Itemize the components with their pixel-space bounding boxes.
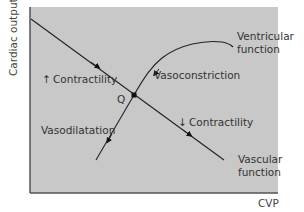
vasoconstriction-label: Vasoconstriction — [154, 69, 240, 81]
increase-contractility-arrow-icon: ↑ — [42, 73, 51, 85]
x-axis-label: CVP — [258, 197, 279, 209]
equilibrium-point-q — [132, 93, 137, 98]
ventricular-function-label-line1: Ventricular — [237, 30, 295, 42]
vascular-function-label-line2: function — [238, 166, 281, 178]
vascular-function-label-line1: Vascular — [238, 153, 283, 165]
y-axis-label: Cardiac output — [7, 0, 19, 76]
decrease-contractility-arrow-icon: ↓ — [178, 116, 187, 128]
point-q-label: Q — [117, 93, 125, 105]
vasodilatation-label: Vasodilatation — [41, 124, 115, 136]
cardiac-vascular-function-diagram: Cardiac output CVP Q Ventricular functio… — [0, 0, 304, 212]
ventricular-function-label-line2: function — [237, 43, 280, 55]
increase-contractility-label: Contractility — [53, 73, 117, 85]
decrease-contractility-label: Contractility — [189, 116, 253, 128]
